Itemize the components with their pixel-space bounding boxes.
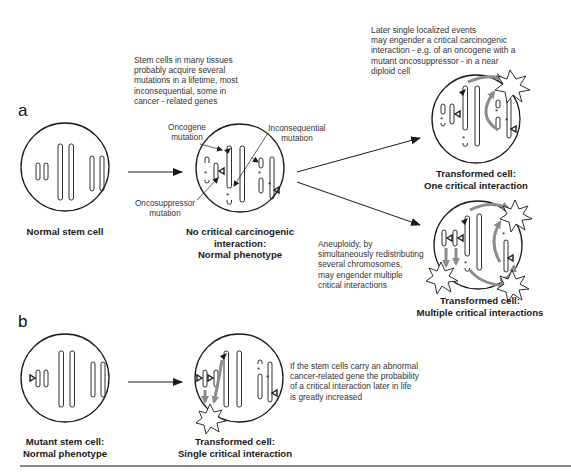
oncogene-mutation-label: Oncogene mutation (162, 123, 212, 143)
aneuploidy-note: Aneuploidy, by simultaneously redistribu… (318, 239, 438, 290)
transformed-cell-single-label: Transformed cell: Single critical intera… (170, 436, 300, 459)
normal-stem-cell-label: Normal stem cell (15, 226, 115, 238)
svg-text:*: * (204, 169, 207, 178)
transformed-cell-one-interaction: * * * * (432, 70, 530, 163)
inconsequential-mutation-label: Inconsequential mutation (264, 124, 330, 144)
mutant-stem-cell (21, 334, 109, 422)
top-note: Later single localized events may engend… (371, 25, 551, 76)
svg-text:*: * (440, 115, 443, 124)
mutant-stem-cell-label: Mutant stem cell: Normal phenotype (15, 436, 115, 459)
bottom-rule (20, 465, 571, 467)
panel-b-note: If the stem cells carry an abnormal canc… (290, 361, 440, 402)
svg-text:*: * (266, 373, 269, 382)
svg-text:*: * (258, 169, 261, 178)
normal-stem-cell (21, 123, 109, 211)
starburst-icon (500, 200, 532, 232)
svg-text:*: * (495, 107, 498, 116)
svg-text:*: * (502, 230, 505, 239)
panel-letter-b: b (18, 312, 27, 332)
transformed-cell-single-interaction: * * (195, 334, 283, 434)
oncosuppressor-mutation-label: Oncosuppressor mutation (130, 199, 200, 219)
svg-text:*: * (505, 116, 508, 125)
top-cell-label: Transformed cell: One critical interacti… (411, 168, 541, 191)
svg-text:*: * (268, 180, 271, 189)
middle-cell-label: No critical carcinogenic interaction: No… (175, 226, 305, 261)
svg-text:*: * (464, 259, 467, 268)
bottom-cell-label: Transformed cell: Multiple critical inte… (405, 295, 555, 318)
arrow-to-multiple-interactions (297, 182, 420, 225)
svg-text:*: * (226, 191, 229, 200)
transformed-cell-multiple-interactions: * * (426, 200, 532, 302)
svg-text:*: * (462, 134, 465, 143)
starburst-icon (196, 404, 226, 434)
svg-text:*: * (257, 365, 260, 374)
panel-letter-a: a (18, 101, 27, 121)
intro-note: Stem cells in many tissues probably acqu… (134, 55, 294, 106)
